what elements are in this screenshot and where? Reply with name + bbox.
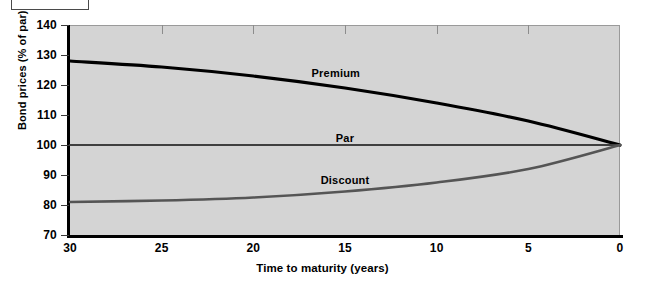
- x-tick-label: 10: [430, 241, 444, 255]
- x-tick-label: 15: [338, 241, 352, 255]
- y-tick: [61, 235, 69, 236]
- x-tick-label: 20: [246, 241, 260, 255]
- y-tick-label: 120: [36, 78, 57, 92]
- y-tick: [61, 205, 69, 206]
- x-tick-label: 0: [617, 241, 624, 255]
- figure-number-box: [11, 0, 89, 10]
- chart-plot-area: 708090100110120130140 302520151050 Premi…: [70, 25, 620, 235]
- series-label-premium: Premium: [312, 67, 360, 79]
- y-tick: [61, 25, 69, 26]
- y-tick-label: 110: [37, 108, 57, 122]
- series-label-par: Par: [336, 132, 354, 144]
- x-tick-label: 30: [63, 241, 77, 255]
- x-tick-label: 25: [155, 241, 169, 255]
- x-tick-label: 5: [525, 241, 532, 255]
- y-axis-title: Bond prices (% of par): [16, 10, 28, 130]
- y-tick: [61, 55, 69, 56]
- y-tick: [61, 85, 69, 86]
- y-tick-label: 80: [43, 198, 57, 212]
- y-tick: [61, 145, 69, 146]
- x-axis-line: [67, 235, 623, 238]
- x-axis-title: Time to maturity (years): [0, 262, 645, 274]
- series-label-discount: Discount: [321, 174, 370, 186]
- y-tick-label: 90: [43, 168, 57, 182]
- y-tick: [61, 175, 69, 176]
- series-curves: [70, 25, 620, 235]
- y-tick-label: 100: [36, 138, 57, 152]
- y-tick: [61, 115, 69, 116]
- y-tick-label: 140: [36, 18, 57, 32]
- y-tick-label: 130: [36, 48, 57, 62]
- y-tick-label: 70: [43, 228, 57, 242]
